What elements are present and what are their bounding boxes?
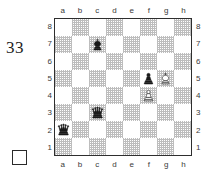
file-label-top-d: d: [106, 6, 123, 15]
board-square-d7[interactable]: [106, 36, 123, 53]
file-label-top-h: h: [175, 6, 192, 15]
board-square-a5[interactable]: [55, 70, 72, 87]
file-label-top-c: c: [89, 6, 106, 15]
board-square-c6[interactable]: [89, 53, 106, 70]
board-square-f6[interactable]: [140, 53, 157, 70]
rank-label-left-6: 6: [42, 53, 52, 70]
board-square-e2[interactable]: [123, 121, 140, 138]
board-square-g1[interactable]: [157, 138, 174, 155]
board-square-c5[interactable]: [89, 70, 106, 87]
white-pawn-icon[interactable]: [140, 87, 157, 104]
board-square-d3[interactable]: [106, 104, 123, 121]
file-label-bottom-c: c: [89, 160, 106, 169]
board-square-a8[interactable]: [55, 19, 72, 36]
board-square-a6[interactable]: [55, 53, 72, 70]
board-square-g4[interactable]: [157, 87, 174, 104]
board-square-e4[interactable]: [123, 87, 140, 104]
rank-label-right-1: 1: [196, 139, 206, 156]
board-square-f8[interactable]: [140, 19, 157, 36]
file-label-bottom-a: a: [54, 160, 71, 169]
board-square-c7[interactable]: [89, 36, 106, 53]
rank-label-right-7: 7: [196, 35, 206, 52]
file-label-bottom-b: b: [71, 160, 88, 169]
board-square-h1[interactable]: [174, 138, 191, 155]
board-square-d6[interactable]: [106, 53, 123, 70]
board-square-d2[interactable]: [106, 121, 123, 138]
board-square-a1[interactable]: [55, 138, 72, 155]
board-square-a2[interactable]: [55, 121, 72, 138]
rank-label-left-4: 4: [42, 87, 52, 104]
board-square-d1[interactable]: [106, 138, 123, 155]
board-square-b3[interactable]: [72, 104, 89, 121]
board-square-g2[interactable]: [157, 121, 174, 138]
board-square-h7[interactable]: [174, 36, 191, 53]
board-square-f4[interactable]: [140, 87, 157, 104]
rank-label-left-3: 3: [42, 104, 52, 121]
file-label-top-a: a: [54, 6, 71, 15]
black-pawn-icon[interactable]: [140, 70, 157, 87]
diagram-number: 33: [6, 38, 44, 58]
board-square-h8[interactable]: [174, 19, 191, 36]
board-square-f5[interactable]: [140, 70, 157, 87]
board-square-b1[interactable]: [72, 138, 89, 155]
rank-label-right-3: 3: [196, 104, 206, 121]
chess-board: [54, 18, 192, 156]
rank-label-right-8: 8: [196, 18, 206, 35]
rank-label-left-5: 5: [42, 70, 52, 87]
board-square-e1[interactable]: [123, 138, 140, 155]
board-square-f7[interactable]: [140, 36, 157, 53]
board-square-e5[interactable]: [123, 70, 140, 87]
board-square-h5[interactable]: [174, 70, 191, 87]
board-square-h2[interactable]: [174, 121, 191, 138]
file-label-top-f: f: [140, 6, 157, 15]
board-square-h4[interactable]: [174, 87, 191, 104]
board-square-g3[interactable]: [157, 104, 174, 121]
board-square-f3[interactable]: [140, 104, 157, 121]
board-square-a3[interactable]: [55, 104, 72, 121]
board-square-f1[interactable]: [140, 138, 157, 155]
side-to-move-indicator: [12, 150, 27, 165]
file-label-bottom-d: d: [106, 160, 123, 169]
board-square-c8[interactable]: [89, 19, 106, 36]
board-square-d5[interactable]: [106, 70, 123, 87]
board-square-e7[interactable]: [123, 36, 140, 53]
board-square-c1[interactable]: [89, 138, 106, 155]
board-square-f2[interactable]: [140, 121, 157, 138]
board-square-h3[interactable]: [174, 104, 191, 121]
board-square-e8[interactable]: [123, 19, 140, 36]
board-square-g7[interactable]: [157, 36, 174, 53]
board-square-g8[interactable]: [157, 19, 174, 36]
board-square-c3[interactable]: [89, 104, 106, 121]
black-queen-icon[interactable]: [55, 121, 72, 138]
board-square-b5[interactable]: [72, 70, 89, 87]
rank-label-right-6: 6: [196, 53, 206, 70]
board-square-d4[interactable]: [106, 87, 123, 104]
board-square-b4[interactable]: [72, 87, 89, 104]
file-label-bottom-e: e: [123, 160, 140, 169]
rank-label-right-4: 4: [196, 87, 206, 104]
board-square-e6[interactable]: [123, 53, 140, 70]
white-king-icon[interactable]: [157, 70, 174, 87]
board-square-g5[interactable]: [157, 70, 174, 87]
board-square-g6[interactable]: [157, 53, 174, 70]
board-square-d8[interactable]: [106, 19, 123, 36]
rank-label-left-1: 1: [42, 139, 52, 156]
board-square-b6[interactable]: [72, 53, 89, 70]
board-square-b7[interactable]: [72, 36, 89, 53]
board-square-c2[interactable]: [89, 121, 106, 138]
file-label-top-g: g: [158, 6, 175, 15]
board-square-c4[interactable]: [89, 87, 106, 104]
board-grid: [55, 19, 191, 155]
file-label-top-e: e: [123, 6, 140, 15]
file-label-top-b: b: [71, 6, 88, 15]
black-queen-icon[interactable]: [89, 104, 106, 121]
board-square-a4[interactable]: [55, 87, 72, 104]
board-square-b8[interactable]: [72, 19, 89, 36]
board-square-h6[interactable]: [174, 53, 191, 70]
file-label-bottom-g: g: [158, 160, 175, 169]
board-square-b2[interactable]: [72, 121, 89, 138]
black-king-icon[interactable]: [89, 36, 106, 53]
board-square-a7[interactable]: [55, 36, 72, 53]
rank-label-right-5: 5: [196, 70, 206, 87]
board-square-e3[interactable]: [123, 104, 140, 121]
